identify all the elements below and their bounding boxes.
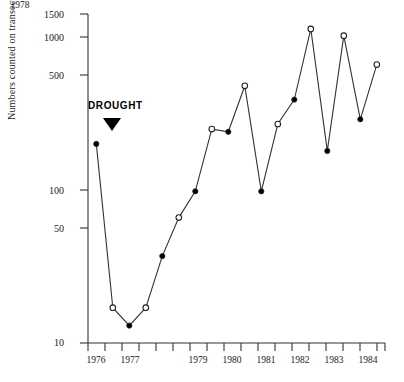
chart-figure: Numbers counted on transect 1500 1000 50… — [0, 0, 404, 382]
series-line — [96, 29, 377, 326]
x-axis-ticks — [88, 343, 385, 351]
data-point-open — [341, 33, 347, 39]
series-markers — [94, 26, 380, 328]
data-point-filled — [259, 189, 264, 194]
data-point-open — [275, 121, 281, 127]
plot-canvas — [0, 0, 404, 382]
data-point-filled — [325, 148, 330, 153]
data-point-filled — [94, 141, 99, 146]
data-point-filled — [292, 97, 297, 102]
y-axis-ticks — [80, 14, 88, 343]
data-point-open — [209, 126, 215, 132]
data-point-filled — [193, 189, 198, 194]
data-point-open — [374, 62, 380, 68]
data-point-open — [308, 26, 314, 32]
data-point-filled — [160, 254, 165, 259]
data-point-filled — [226, 129, 231, 134]
data-point-open — [176, 215, 182, 221]
data-point-open — [143, 305, 149, 311]
data-point-filled — [358, 117, 363, 122]
data-point-filled — [127, 323, 132, 328]
drought-arrow-icon — [103, 118, 121, 131]
data-point-open — [242, 83, 248, 89]
data-point-open — [110, 305, 116, 311]
